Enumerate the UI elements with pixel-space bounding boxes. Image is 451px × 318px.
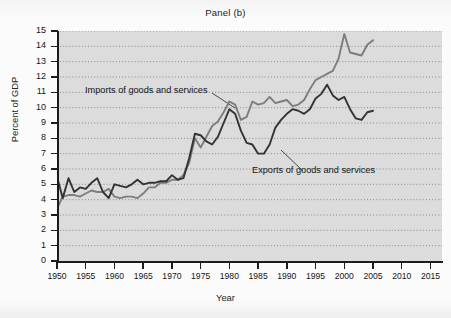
x-tick bbox=[171, 262, 172, 269]
x-tick bbox=[257, 262, 258, 269]
plot-canvas bbox=[57, 31, 442, 261]
y-tick-label: 5 bbox=[0, 179, 46, 188]
y-tick bbox=[51, 61, 58, 62]
y-tick bbox=[51, 184, 58, 185]
y-tick-label: 8 bbox=[0, 133, 46, 142]
y-tick-label: 2 bbox=[0, 225, 46, 234]
y-tick-label: 0 bbox=[0, 256, 46, 265]
y-tick bbox=[51, 138, 58, 139]
x-tick bbox=[85, 262, 86, 269]
y-tick bbox=[51, 153, 58, 154]
y-tick bbox=[51, 92, 58, 93]
gridlines-group bbox=[57, 31, 442, 246]
x-tick bbox=[344, 262, 345, 269]
y-axis-title: Percent of GDP bbox=[9, 40, 20, 180]
series-line-imports bbox=[57, 34, 373, 209]
y-tick bbox=[51, 199, 58, 200]
x-tick bbox=[142, 262, 143, 269]
chart-figure: Panel (b) 0123456789101112131415 1950195… bbox=[0, 0, 451, 318]
x-tick bbox=[401, 262, 402, 269]
y-tick bbox=[51, 30, 58, 31]
y-tick bbox=[51, 168, 58, 169]
x-tick bbox=[315, 262, 316, 269]
y-tick bbox=[51, 214, 58, 215]
x-tick bbox=[430, 262, 431, 269]
x-tick bbox=[372, 262, 373, 269]
x-tick bbox=[229, 262, 230, 269]
y-tick-label: 1 bbox=[0, 241, 46, 250]
y-tick bbox=[51, 107, 58, 108]
x-tick bbox=[286, 262, 287, 269]
y-tick bbox=[51, 122, 58, 123]
y-tick-label: 13 bbox=[0, 57, 46, 66]
y-tick bbox=[51, 46, 58, 47]
x-axis-title: Year bbox=[0, 292, 451, 303]
y-tick-label: 14 bbox=[0, 41, 46, 50]
y-tick bbox=[51, 245, 58, 246]
series-line-exports bbox=[57, 85, 373, 198]
y-tick-label: 4 bbox=[0, 195, 46, 204]
y-tick-label: 10 bbox=[0, 103, 46, 112]
y-tick-label: 6 bbox=[0, 164, 46, 173]
x-tick-label: 2015 bbox=[411, 271, 451, 281]
y-tick-label: 9 bbox=[0, 118, 46, 127]
y-tick-label: 11 bbox=[0, 87, 46, 96]
y-axis-line bbox=[57, 31, 59, 263]
y-tick bbox=[51, 230, 58, 231]
x-tick bbox=[200, 262, 201, 269]
x-tick bbox=[56, 262, 57, 269]
y-tick bbox=[51, 76, 58, 77]
plot-area bbox=[57, 31, 442, 261]
panel-title: Panel (b) bbox=[0, 7, 451, 18]
x-tick bbox=[114, 262, 115, 269]
series-label-imports: Imports of goods and services bbox=[85, 85, 208, 95]
y-tick-label: 15 bbox=[0, 26, 46, 35]
y-tick-label: 3 bbox=[0, 210, 46, 219]
y-tick-label: 12 bbox=[0, 72, 46, 81]
series-label-exports: Exports of goods and services bbox=[252, 165, 375, 175]
y-tick-label: 7 bbox=[0, 149, 46, 158]
